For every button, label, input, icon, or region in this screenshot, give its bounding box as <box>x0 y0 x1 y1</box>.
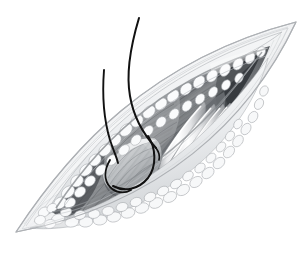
illustration-canvas <box>0 0 306 266</box>
surgical-illustration-figure: Surgical incision exposing muscle, fasci… <box>0 0 306 266</box>
